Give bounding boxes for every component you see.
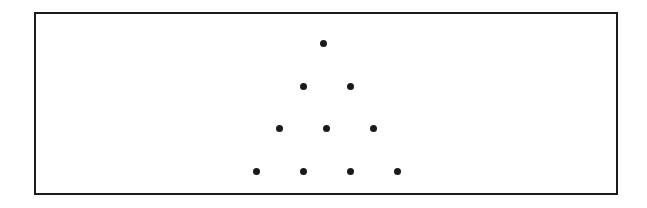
figure-frame-border	[34, 12, 618, 195]
figure-canvas	[0, 0, 647, 208]
